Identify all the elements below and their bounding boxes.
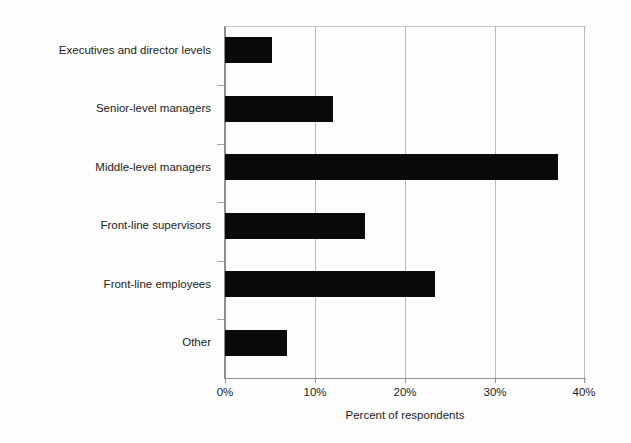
bar-senior-level-managers <box>225 96 333 122</box>
gridline-40 <box>584 27 585 378</box>
x-axis-title: Percent of respondents <box>225 409 585 421</box>
value-axis-label-30: 30% <box>483 386 506 399</box>
bar-front-line-supervisors <box>225 213 365 239</box>
value-axis-tick-10 <box>315 378 316 383</box>
category-axis-tick <box>217 202 225 203</box>
gridline-30 <box>495 27 496 378</box>
category-label-0: Executives and director levels <box>1 44 211 57</box>
category-label-1: Senior-level managers <box>1 102 211 115</box>
gridline-0 <box>225 27 226 378</box>
bar-other <box>225 330 287 356</box>
value-axis-label-40: 40% <box>572 386 595 399</box>
gridline-20 <box>405 27 406 378</box>
value-axis-label-0: 0% <box>217 386 234 399</box>
category-axis-tick <box>217 261 225 262</box>
category-label-4: Front-line employees <box>1 278 211 291</box>
value-axis-label-10: 10% <box>303 386 326 399</box>
category-label-5: Other <box>1 336 211 349</box>
bar-chart: Executives and director levels Senior-le… <box>0 0 631 443</box>
bar-middle-level-managers <box>225 154 558 180</box>
value-axis-tick-30 <box>495 378 496 383</box>
category-label-2: Middle-level managers <box>1 161 211 174</box>
gridline-10 <box>315 27 316 378</box>
value-axis-tick-40 <box>584 378 585 383</box>
category-label-3: Front-line supervisors <box>1 219 211 232</box>
category-axis-labels: Executives and director levels Senior-le… <box>0 27 218 378</box>
plot-area <box>225 27 585 378</box>
bar-front-line-employees <box>225 271 435 297</box>
value-axis-tick-0 <box>225 378 226 383</box>
category-axis-tick <box>217 144 225 145</box>
category-axis-tick <box>217 85 225 86</box>
value-axis-label-20: 20% <box>393 386 416 399</box>
value-axis-tick-20 <box>405 378 406 383</box>
bar-executives-and-director-levels <box>225 37 272 63</box>
category-axis-tick <box>217 319 225 320</box>
